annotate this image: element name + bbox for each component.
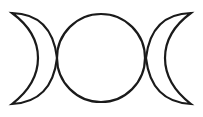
triple-moon-symbol: triple moon <box>0 0 203 117</box>
triple-moon-icon <box>0 0 203 117</box>
waning-crescent-icon <box>146 13 191 104</box>
waxing-crescent-icon <box>12 13 57 104</box>
full-moon-icon <box>57 14 145 102</box>
